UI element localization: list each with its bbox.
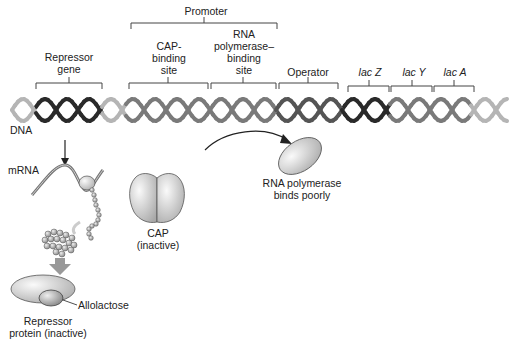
allolactose-label: Allolactose: [78, 299, 129, 311]
cap-protein: [130, 174, 185, 223]
rna-pol-binding-bracket: [211, 77, 276, 89]
polypeptide-chain: [87, 188, 102, 241]
operator-label: Operator: [280, 66, 336, 78]
operator-bracket: [279, 77, 338, 89]
dna-helix: [12, 99, 507, 121]
promoter-label: Promoter: [176, 5, 236, 17]
dna-label: DNA: [10, 124, 32, 136]
repressor-gene-bracket: [36, 77, 102, 89]
allolactose-molecule: [39, 290, 63, 306]
repressor-gene-label: Repressor gene: [39, 51, 99, 75]
dna-strand-b: [504, 99, 507, 100]
lac-y-label: lac Y: [396, 66, 432, 78]
lac-a-label: lac A: [437, 66, 473, 78]
lac-z-bracket: [348, 80, 389, 92]
transcription-arrow: [61, 140, 69, 166]
rna-polymerase-arrow: [205, 131, 292, 150]
lac-z-label: lac Z: [352, 66, 388, 78]
repressor-protein-label: Repressor protein (inactive): [0, 315, 96, 339]
folded-repressor-cluster: [42, 229, 77, 257]
folding-arrow: [49, 258, 71, 275]
rna-polymerase-binding-site-label: RNA polymerase– binding site: [210, 28, 278, 76]
cap-label: CAP (inactive): [128, 227, 188, 251]
rna-polymerase-label: RNA polymerase binds poorly: [252, 177, 352, 201]
cap-binding-bracket: [129, 77, 208, 89]
cap-binding-site-label: CAP- binding site: [146, 40, 192, 76]
lac-a-bracket: [434, 80, 474, 92]
lac-y-bracket: [391, 80, 432, 92]
rna-polymerase: [272, 130, 329, 182]
dna-strand-a: [504, 120, 507, 121]
mrna-label: mRNA: [8, 164, 39, 176]
